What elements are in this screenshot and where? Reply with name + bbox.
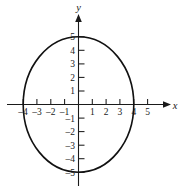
x-axis-arrow-icon <box>163 101 171 108</box>
x-tick-label-2: 2 <box>104 107 109 117</box>
y-tick-label-5: 5 <box>70 32 75 42</box>
y-tick-label--2: –2 <box>65 127 76 137</box>
x-tick-label--3: –3 <box>31 107 42 117</box>
y-tick-label-3: 3 <box>70 59 75 69</box>
plot-area: –4 –3 –2 –1 1 2 3 4 5 5 4 3 2 1 –1 –2 –3… <box>0 0 185 193</box>
ellipse-graph-figure: –4 –3 –2 –1 1 2 3 4 5 5 4 3 2 1 –1 –2 –3… <box>0 0 185 193</box>
x-tick-label--4: –4 <box>17 107 28 117</box>
y-tick-label--3: –3 <box>65 141 76 151</box>
y-tick-label-2: 2 <box>70 73 75 83</box>
y-tick-label--1: –1 <box>65 114 76 124</box>
x-tick-label-1: 1 <box>90 107 95 117</box>
x-tick-label--2: –2 <box>45 107 56 117</box>
y-axis-arrow-icon <box>75 14 82 22</box>
y-axis-label: y <box>75 2 81 13</box>
y-tick-label-1: 1 <box>70 86 75 96</box>
y-tick-label--4: –4 <box>65 154 76 164</box>
x-axis-label: x <box>172 100 178 111</box>
x-tick-label-3: 3 <box>118 107 123 117</box>
x-tick-label-5: 5 <box>145 107 150 117</box>
y-tick-label-4: 4 <box>70 46 75 56</box>
x-tick-label-4: 4 <box>131 107 136 117</box>
y-tick-label--5: –5 <box>65 168 76 178</box>
